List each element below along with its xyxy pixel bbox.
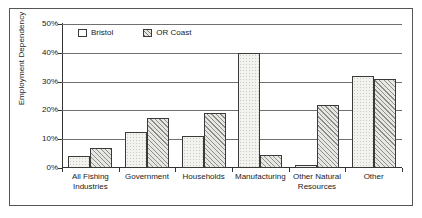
bar-group xyxy=(345,24,402,168)
x-axis-label-line: Other xyxy=(339,172,408,182)
y-tick-label-50%: 50% xyxy=(24,20,58,28)
legend-label-bristol: Bristol xyxy=(91,29,113,37)
bar-or-coast xyxy=(147,118,169,168)
bar-group xyxy=(232,24,289,168)
y-tick-label-40%: 40% xyxy=(24,49,58,57)
y-tick-label-0%: 0% xyxy=(24,164,58,172)
bar-or-coast xyxy=(260,155,282,168)
chart-legend: Bristol OR Coast xyxy=(78,29,191,37)
bar-or-coast xyxy=(90,148,112,168)
y-tick-label-10%: 10% xyxy=(24,135,58,143)
bar-group xyxy=(175,24,232,168)
y-tick-label-30%: 30% xyxy=(24,78,58,86)
y-tick-label-20%: 20% xyxy=(24,106,58,114)
legend-swatch-bristol xyxy=(78,29,87,37)
bar-or-coast xyxy=(204,113,226,168)
bar-group xyxy=(62,24,119,168)
bar-bristol xyxy=(238,53,260,168)
bar-or-coast xyxy=(317,105,339,168)
bar-or-coast xyxy=(374,79,396,168)
chart-figure: Employment Dependency 0%10%20%30%40%50% … xyxy=(0,0,422,218)
legend-item-bristol: Bristol xyxy=(78,29,113,37)
legend-item-or-coast: OR Coast xyxy=(143,29,191,37)
bar-group xyxy=(289,24,346,168)
bar-bristol xyxy=(68,156,90,168)
legend-swatch-or-coast xyxy=(143,29,152,37)
bar-bristol xyxy=(352,76,374,168)
x-axis-label: Other xyxy=(339,172,408,182)
legend-label-or-coast: OR Coast xyxy=(156,29,191,37)
x-axis-label-line: Resources xyxy=(283,182,352,192)
plot-area: 0%10%20%30%40%50% xyxy=(62,24,402,168)
x-axis-label-line: Industries xyxy=(56,182,125,192)
y-axis-title: Employment Dependency xyxy=(17,0,26,124)
bar-bristol xyxy=(295,165,317,168)
bar-group xyxy=(119,24,176,168)
bar-bristol xyxy=(182,136,204,168)
bar-bristol xyxy=(125,132,147,168)
